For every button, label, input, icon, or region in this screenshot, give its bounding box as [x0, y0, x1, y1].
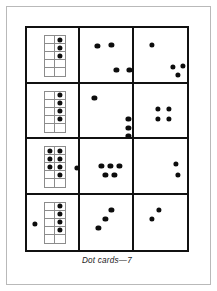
dot	[112, 172, 117, 177]
ten-frame-cell	[55, 171, 65, 179]
ten-frame-cell	[45, 36, 55, 44]
ten-frame-cell	[45, 92, 55, 100]
dot-card-r2c1	[27, 84, 80, 140]
dot-card-r4c1	[27, 195, 80, 251]
ten-frame-cell	[45, 108, 55, 116]
dot	[126, 116, 131, 121]
dot	[114, 67, 119, 72]
dot-card-r2c3	[134, 84, 187, 140]
dot	[109, 207, 114, 212]
dot	[149, 216, 154, 221]
ten-frame-cell	[55, 235, 65, 243]
dot	[126, 125, 131, 130]
dot	[155, 106, 160, 111]
ten-frame-cell	[45, 147, 55, 155]
ten-frame-cell	[45, 163, 55, 171]
dot	[99, 163, 104, 168]
dot	[92, 95, 97, 100]
dot	[117, 163, 122, 168]
ten-frame-cell	[55, 211, 65, 219]
ten-frame-cell	[55, 92, 65, 100]
dot-card-r3c1	[27, 139, 80, 195]
ten-frame-cell	[45, 235, 55, 243]
ten-frame-cell	[45, 219, 55, 227]
dot	[109, 42, 114, 47]
ten-frame-cell	[45, 68, 55, 76]
dot-card-r3c2	[80, 139, 133, 195]
dot-card-r1c1	[27, 28, 80, 84]
ten-frame-cell	[55, 179, 65, 187]
dot-card-r3c3	[134, 139, 187, 195]
dot	[95, 43, 100, 48]
dot	[170, 64, 175, 69]
ten-frame-cell	[55, 147, 65, 155]
dot	[103, 172, 108, 177]
ten-frame-cell	[45, 211, 55, 219]
ten-frame-r2c1	[44, 91, 66, 133]
ten-frame-cell	[55, 124, 65, 132]
dot	[126, 133, 131, 138]
dot	[96, 225, 101, 230]
ten-frame-cell	[55, 116, 65, 124]
ten-frame-cell	[55, 203, 65, 211]
ten-frame-cell	[55, 100, 65, 108]
ten-frame-cell	[55, 227, 65, 235]
ten-frame-cell	[45, 52, 55, 60]
ten-frame-cell	[55, 52, 65, 60]
ten-frame-cell	[45, 203, 55, 211]
dot	[74, 165, 79, 170]
ten-frame-cell	[45, 155, 55, 163]
dot-card-r4c2	[80, 195, 133, 251]
ten-frame-cell	[55, 219, 65, 227]
dot	[175, 72, 180, 77]
dot	[180, 63, 185, 68]
dot	[156, 207, 161, 212]
ten-frame-cell	[45, 116, 55, 124]
ten-frame-cell	[45, 44, 55, 52]
dot	[127, 67, 132, 72]
ten-frame-r1c1	[44, 35, 66, 77]
dot-card-r1c3	[134, 28, 187, 84]
ten-frame-r4c1	[44, 202, 66, 244]
dot	[103, 216, 108, 221]
dot	[32, 221, 37, 226]
dot	[155, 116, 160, 121]
worksheet-caption: Dot cards—7	[25, 256, 189, 265]
ten-frame-cell	[45, 100, 55, 108]
ten-frame-cell	[45, 171, 55, 179]
dot-card-grid	[25, 26, 189, 252]
dot	[108, 163, 113, 168]
ten-frame-cell	[45, 60, 55, 68]
dot	[175, 172, 180, 177]
dot	[173, 161, 178, 166]
ten-frame-cell	[55, 44, 65, 52]
ten-frame-cell	[45, 179, 55, 187]
dot-card-r2c2	[80, 84, 133, 140]
ten-frame-cell	[55, 60, 65, 68]
ten-frame-cell	[55, 155, 65, 163]
ten-frame-cell	[55, 163, 65, 171]
ten-frame-cell	[55, 68, 65, 76]
dot	[166, 116, 171, 121]
dot	[166, 106, 171, 111]
dot-card-r1c2	[80, 28, 133, 84]
dot-card-r4c3	[134, 195, 187, 251]
ten-frame-cell	[55, 108, 65, 116]
ten-frame-cell	[45, 124, 55, 132]
ten-frame-r3c1	[44, 146, 66, 188]
ten-frame-cell	[55, 36, 65, 44]
dot-cards-worksheet: Dot cards—7	[0, 0, 217, 291]
ten-frame-cell	[45, 227, 55, 235]
dot	[149, 42, 154, 47]
